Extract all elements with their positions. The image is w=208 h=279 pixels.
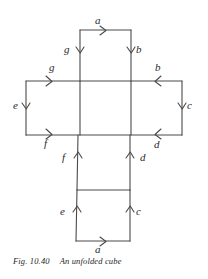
edge-label-bottom-left-e: e [60,206,65,217]
unfolded-cube-diagram [0,0,208,279]
edge-label-lower-left-f: f [62,152,65,163]
edge-label-bottom-right-c: c [136,206,141,217]
edge-label-mid-left-e: e [13,100,18,111]
figure-caption-number: Fig. 10.40 [13,256,50,266]
edge-label-bottom-a: a [95,244,101,255]
figure-caption-text: An unfolded cube [60,256,122,266]
edge-label-mid-right-c: c [187,100,192,111]
edge-label-top-right-b: b [136,44,142,55]
edge-label-mid-bot-right-d: d [154,139,160,150]
edge-label-mid-top-left-g: g [49,62,55,73]
edge-label-top-a: a [95,15,101,26]
figure-caption: Fig. 10.40An unfolded cube [13,256,122,266]
edge-label-lower-right-d: d [140,152,146,163]
line-bottom-square-left [76,190,77,241]
edge-label-mid-top-right-b: b [155,62,161,73]
edge-label-mid-bot-left-f: f [44,138,47,149]
figure-page: a g b g b e c f d f d e c a Fig. 10.40An… [0,0,208,279]
edge-label-top-left-g: g [64,44,70,55]
line-lower-square-left [77,135,78,190]
